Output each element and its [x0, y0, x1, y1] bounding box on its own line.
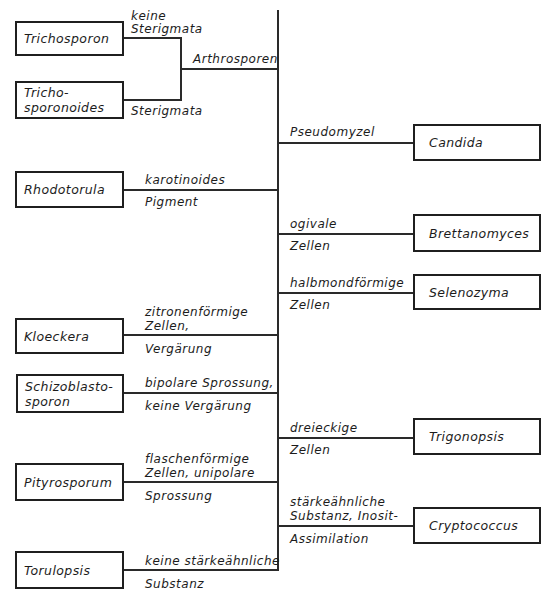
branch-selenozyma [278, 292, 414, 294]
genus-box-torulopsis: Torulopsis [15, 551, 124, 589]
branch-schizoblastosporon [123, 392, 278, 394]
genus-box-brettanomyces: Brettanomyces [413, 214, 541, 252]
criterion-assimilation: Assimilation [290, 533, 369, 546]
main-spine [277, 10, 279, 571]
branch-arthrosporen [180, 68, 278, 70]
criterion-keine-staerkeaehnliche: keine stärkeähnliche [145, 555, 280, 568]
criterion-pigment: Pigment [145, 196, 198, 209]
genus-label: Tricho-sporonoides [24, 85, 104, 115]
criterion-bipolare-sprossung: bipolare Sprossung, [145, 377, 274, 390]
genus-label: Rhodotorula [24, 182, 105, 197]
criterion-halbmondfoermige: halbmondförmige [290, 277, 404, 290]
genus-box-kloeckera: Kloeckera [15, 318, 124, 354]
criterion-halbmond-zellen: Zellen [290, 299, 330, 312]
genus-label: Cryptococcus [429, 518, 518, 533]
criterion-ogivale: ogivale [290, 218, 337, 231]
genus-box-trichosporonoides: Tricho-sporonoides [15, 81, 124, 119]
criterion-substanz: Substanz [145, 578, 204, 591]
branch-torulopsis [123, 569, 279, 571]
criterion-zitronen-zellen: Zellen, [145, 320, 190, 333]
genus-box-schizoblastosporon: Schizoblasto-sporon [16, 374, 124, 413]
criterion-zitronenfoermige: zitronenförmige [145, 306, 248, 319]
criterion-karotinoides: karotinoides [145, 174, 225, 187]
branch-kloeckera [123, 334, 278, 336]
criterion-ogivale-zellen: Zellen [290, 240, 330, 253]
branch-trichosporon [123, 37, 181, 39]
genus-box-rhodotorula: Rhodotorula [15, 171, 124, 208]
genus-label: Selenozyma [429, 285, 509, 300]
genus-box-trigonopsis: Trigonopsis [413, 418, 541, 455]
genus-label: Trigonopsis [429, 429, 504, 444]
branch-cryptococcus [278, 525, 414, 527]
genus-label: Trichosporon [24, 31, 109, 46]
genus-box-trichosporon: Trichosporon [15, 21, 124, 56]
genus-box-cryptococcus: Cryptococcus [413, 507, 541, 544]
criterion-arthrosporen: Arthrosporen [193, 53, 278, 66]
criterion-dreieckige-zellen: Zellen [290, 444, 330, 457]
criterion-flaschenfoermige: flaschenförmige [145, 453, 249, 466]
criterion-vergaerung: Vergärung [145, 343, 212, 356]
genus-label: Candida [429, 135, 483, 150]
criterion-keine-vergaerung: keine Vergärung [145, 400, 252, 413]
criterion-sprossung: Sprossung [145, 490, 212, 503]
criterion-sterigmata: Sterigmata [131, 105, 203, 118]
branch-rhodotorula [123, 189, 278, 191]
criterion-dreieckige: dreieckige [290, 422, 358, 435]
genus-box-pityrosporum: Pityrosporum [15, 463, 124, 501]
branch-candida [278, 142, 414, 144]
criterion-keine-sterigmata: Sterigmata [131, 23, 203, 36]
branch-trichosporonoides [123, 99, 181, 101]
genus-label: Torulopsis [24, 563, 90, 578]
genus-box-candida: Candida [413, 124, 541, 161]
criterion-staerkeaehnliche: stärkeähnliche [290, 496, 385, 509]
genus-label: Schizoblasto-sporon [25, 379, 113, 409]
criterion-zellen-unipolare: Zellen, unipolare [145, 467, 255, 480]
genus-box-selenozyma: Selenozyma [413, 274, 541, 310]
genus-label: Brettanomyces [429, 226, 529, 241]
criterion-substanz-inosit: Substanz, Inosit- [290, 510, 398, 523]
genus-label: Kloeckera [24, 329, 89, 344]
criterion-pseudomyzel: Pseudomyzel [290, 126, 375, 139]
branch-pityrosporum [123, 481, 278, 483]
branch-trigonopsis [278, 437, 414, 439]
branch-brettanomyces [278, 233, 414, 235]
genus-label: Pityrosporum [24, 475, 112, 490]
